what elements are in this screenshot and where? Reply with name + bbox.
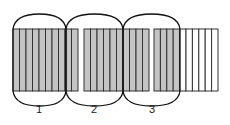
unshaded-column (199, 29, 205, 91)
grouping-diagram (0, 0, 230, 125)
shaded-column (143, 29, 150, 91)
group-label-2: 2 (91, 104, 97, 115)
shaded-column (167, 29, 173, 91)
shaded-column (136, 29, 143, 91)
unshaded-column (205, 29, 211, 91)
shaded-column (26, 29, 33, 91)
shaded-column (160, 29, 166, 91)
unshaded-column (212, 29, 218, 91)
shaded-column (104, 29, 111, 91)
group-oval-top-1 (13, 14, 66, 29)
shaded-column (173, 29, 179, 91)
shaded-column (52, 29, 59, 91)
shaded-column (33, 29, 40, 91)
group-label-3: 3 (149, 104, 155, 115)
shaded-column (39, 29, 46, 91)
group-oval-top-2 (66, 14, 123, 29)
shaded-column (59, 29, 66, 91)
bar-block-3 (154, 29, 218, 91)
group-oval-top-3 (123, 14, 180, 29)
shaded-column (72, 29, 79, 91)
shaded-column (13, 29, 20, 91)
shaded-column (84, 29, 91, 91)
bar-block-2 (84, 29, 149, 91)
shaded-column (20, 29, 27, 91)
shaded-column (154, 29, 160, 91)
shaded-column (110, 29, 117, 91)
shaded-column (130, 29, 137, 91)
shaded-column (97, 29, 104, 91)
shaded-column (117, 29, 124, 91)
bar-blocks (13, 29, 218, 91)
shaded-column (91, 29, 98, 91)
shaded-column (123, 29, 130, 91)
unshaded-column (186, 29, 192, 91)
group-label-1: 1 (36, 104, 42, 115)
unshaded-column (192, 29, 198, 91)
shaded-column (46, 29, 53, 91)
bar-block-1 (13, 29, 78, 91)
